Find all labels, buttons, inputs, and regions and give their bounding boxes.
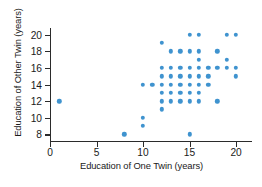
y-tick-label: 16 <box>18 62 42 73</box>
x-tick-label: 20 <box>224 147 248 158</box>
y-tick-label: 18 <box>18 46 42 57</box>
x-tick-label: 0 <box>38 147 62 158</box>
y-tick-label: 20 <box>18 29 42 40</box>
y-tick-label: 8 <box>18 129 42 140</box>
x-tick-label: 5 <box>85 147 109 158</box>
y-tick-label: 14 <box>18 79 42 90</box>
y-tick-label: 12 <box>18 96 42 107</box>
scatter-chart: Education of Other Twin (years) 81012141… <box>0 0 262 187</box>
x-tick-label: 15 <box>178 147 202 158</box>
x-tick-label: 10 <box>131 147 155 158</box>
x-axis-title: Education of One Twin (years) <box>34 160 249 171</box>
y-tick-label: 10 <box>18 112 42 123</box>
